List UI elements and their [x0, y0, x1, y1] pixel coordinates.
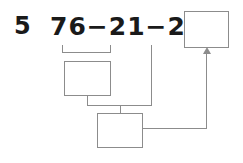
arrow-up-icon: [203, 47, 211, 54]
answer-box-step2[interactable]: [97, 113, 143, 148]
connector-line-into-step2: [120, 105, 121, 114]
answer-box-step1[interactable]: [64, 61, 111, 96]
grouping-bracket-icon: [62, 45, 111, 53]
problem-number: 5: [14, 14, 31, 38]
connector-line-from-24: [151, 45, 152, 106]
answer-box-total[interactable]: [184, 11, 229, 48]
connector-line-step2-right: [143, 128, 207, 129]
worksheet-problem: 5 76−21−24=: [0, 0, 243, 163]
connector-line-to-total: [206, 53, 207, 129]
